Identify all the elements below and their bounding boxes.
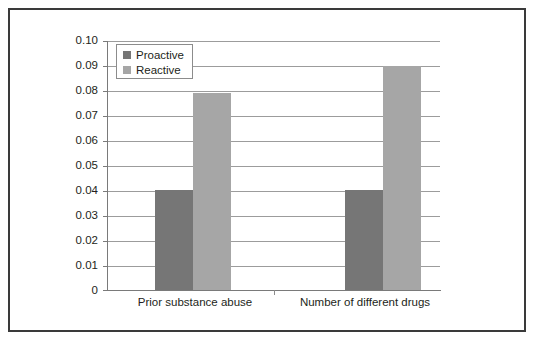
legend-label-reactive: Reactive bbox=[136, 64, 181, 76]
bar-number-of-different-drugs-proactive bbox=[345, 190, 383, 290]
x-axis-label-number-of-different-drugs: Number of different drugs bbox=[280, 296, 450, 308]
legend-swatch-reactive-icon bbox=[123, 66, 131, 74]
y-axis-tick-0_02: 0.02 bbox=[38, 235, 98, 246]
legend-item-proactive: Proactive bbox=[123, 48, 187, 62]
chart-legend: Proactive Reactive bbox=[116, 44, 193, 79]
y-axis-tick-0_10: 0.10 bbox=[38, 35, 98, 46]
y-axis-tick-0_01: 0.01 bbox=[38, 260, 98, 271]
bar-prior-substance-abuse-reactive bbox=[193, 93, 231, 290]
bar-number-of-different-drugs-reactive bbox=[383, 66, 421, 290]
x-axis-label-prior-substance-abuse: Prior substance abuse bbox=[115, 296, 275, 308]
x-axis-divider bbox=[274, 290, 275, 295]
y-axis-tick-0_03: 0.03 bbox=[38, 210, 98, 221]
bar-prior-substance-abuse-proactive bbox=[155, 190, 193, 290]
y-axis-tick-0_09: 0.09 bbox=[38, 60, 98, 71]
legend-swatch-proactive-icon bbox=[123, 51, 131, 59]
chart-figure: 0.10 0.09 0.08 0.07 0.06 0.05 0.04 0.03 … bbox=[0, 0, 534, 340]
gridline bbox=[108, 41, 440, 42]
y-axis-tick-0: 0 bbox=[38, 285, 98, 296]
y-axis-tick-0_07: 0.07 bbox=[38, 110, 98, 121]
y-axis-tick-0_05: 0.05 bbox=[38, 160, 98, 171]
y-axis-tick-0_08: 0.08 bbox=[38, 85, 98, 96]
legend-label-proactive: Proactive bbox=[136, 49, 184, 61]
y-axis-tick-0_04: 0.04 bbox=[38, 185, 98, 196]
legend-item-reactive: Reactive bbox=[123, 63, 187, 77]
y-axis-tick-0_06: 0.06 bbox=[38, 135, 98, 146]
